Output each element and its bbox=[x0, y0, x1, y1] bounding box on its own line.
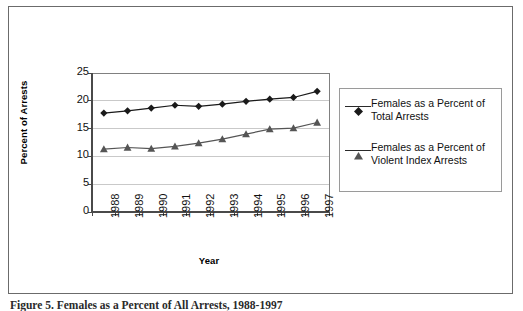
figure-caption: Figure 5. Females as a Percent of All Ar… bbox=[10, 299, 510, 311]
x-axis-tick-label: 1988 bbox=[109, 194, 121, 218]
x-axis-tick-label: 1997 bbox=[323, 194, 335, 218]
x-axis-tick-label: 1995 bbox=[275, 194, 287, 218]
figure-frame: 0510152025 19881989199019911992199319941… bbox=[8, 6, 513, 294]
x-axis-title: Year bbox=[94, 255, 324, 266]
x-axis-tick-label: 1993 bbox=[228, 194, 240, 218]
legend-item-total-arrests: Females as a Percent of Total Arrests bbox=[345, 97, 499, 122]
legend-item-violent-index-arrests: Females as a Percent of Violent Index Ar… bbox=[345, 141, 499, 166]
y-axis-title: Percent of Arrests bbox=[18, 63, 29, 183]
x-axis-tick-label: 1996 bbox=[299, 194, 311, 218]
x-axis-tick-label: 1994 bbox=[252, 194, 264, 218]
x-axis-tick-label: 1990 bbox=[157, 194, 169, 218]
triangle-marker-icon bbox=[345, 144, 371, 157]
legend-label: Females as a Percent of Violent Index Ar… bbox=[371, 141, 499, 166]
chart-legend: Females as a Percent of Total Arrests Fe… bbox=[339, 88, 502, 192]
diamond-marker-icon bbox=[345, 100, 371, 113]
legend-label: Females as a Percent of Total Arrests bbox=[371, 97, 499, 122]
x-axis-tick-label: 1992 bbox=[204, 194, 216, 218]
x-axis-tick-label: 1989 bbox=[133, 194, 145, 218]
x-axis-tick-label: 1991 bbox=[180, 194, 192, 218]
